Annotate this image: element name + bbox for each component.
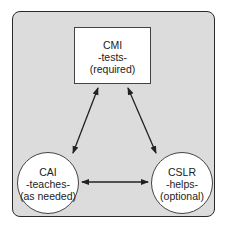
node-cai: CAI -teaches- (as needed) [17, 152, 79, 214]
node-cai-title: CAI [18, 166, 78, 178]
node-cmi-role: -tests- [75, 51, 150, 63]
arrow-cmi-cslr [128, 88, 156, 153]
node-cmi-title: CMI [75, 39, 150, 51]
arrow-cmi-cai [73, 88, 98, 153]
node-cai-role: -teaches- [18, 178, 78, 190]
node-cslr-title: CSLR [152, 166, 212, 178]
node-cai-note: (as needed) [18, 190, 78, 202]
node-cslr-role: -helps- [152, 178, 212, 190]
node-cslr: CSLR -helps- (optional) [151, 152, 213, 214]
node-cmi: CMI -tests- (required) [74, 27, 151, 84]
node-cmi-note: (required) [75, 63, 150, 75]
node-cslr-note: (optional) [152, 190, 212, 202]
